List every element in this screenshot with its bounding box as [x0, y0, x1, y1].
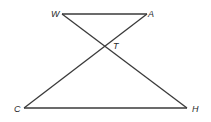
- segment-AC: [24, 14, 147, 108]
- segment-WH: [62, 14, 187, 108]
- geometry-diagram: W A T C H: [0, 0, 211, 122]
- point-label-w: W: [51, 9, 61, 19]
- point-label-t: T: [113, 41, 120, 51]
- point-label-a: A: [147, 9, 154, 19]
- point-label-h: H: [192, 104, 199, 114]
- point-label-c: C: [14, 104, 21, 114]
